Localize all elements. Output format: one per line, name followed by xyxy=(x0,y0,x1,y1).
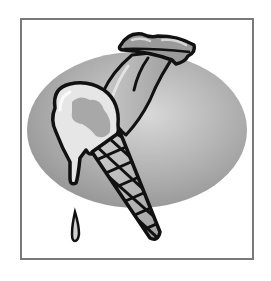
drip-drop xyxy=(72,212,79,241)
ice-cream-illustration xyxy=(0,0,271,281)
